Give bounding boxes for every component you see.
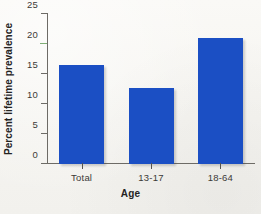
- y-axis-tick: [41, 163, 47, 164]
- x-axis-tick: [151, 163, 152, 169]
- bar: [129, 88, 174, 165]
- bar-chart: Percent lifetime prevalence 0510152025 A…: [0, 0, 261, 214]
- x-axis-tick-label: Total: [71, 172, 92, 183]
- y-axis-title: Percent lifetime prevalence: [3, 14, 17, 164]
- y-axis-tick: [41, 133, 47, 134]
- x-axis-tick: [82, 163, 83, 169]
- y-axis-tick: [40, 43, 47, 44]
- y-axis-tick: [41, 13, 47, 14]
- y-axis-tick-label: 10: [27, 88, 38, 99]
- plot-area: 0510152025: [47, 14, 255, 164]
- x-axis-title: Age: [0, 188, 261, 199]
- x-axis-tick-label: 18-64: [208, 172, 233, 183]
- y-axis-tick-label: 0: [33, 148, 38, 159]
- bar: [59, 65, 104, 164]
- y-axis-tick-label: 5: [33, 118, 38, 129]
- y-axis-tick: [41, 73, 47, 74]
- y-axis-tick-label: 25: [27, 0, 38, 9]
- x-axis-tick: [220, 163, 221, 169]
- bar: [198, 38, 243, 164]
- y-axis-tick: [41, 103, 47, 104]
- y-axis-tick-label: 15: [27, 58, 38, 69]
- y-axis-tick-label: 20: [27, 28, 38, 39]
- x-axis-tick-label: 13-17: [138, 172, 163, 183]
